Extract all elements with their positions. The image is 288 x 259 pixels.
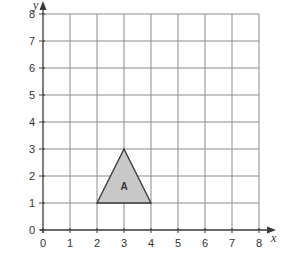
x-tick-label: 8 xyxy=(256,237,262,249)
x-tick-label: 5 xyxy=(175,237,181,249)
x-tick-label: 3 xyxy=(121,237,127,249)
x-tick-label: 7 xyxy=(229,237,235,249)
x-tick-label: 6 xyxy=(202,237,208,249)
x-axis-label: x xyxy=(270,231,277,245)
y-axis-arrow-icon xyxy=(40,1,47,10)
y-tick-label: 7 xyxy=(29,35,35,47)
y-tick-label: 3 xyxy=(29,143,35,155)
y-tick-label: 1 xyxy=(29,197,35,209)
y-tick-label: 0 xyxy=(29,224,35,236)
y-tick-label: 2 xyxy=(29,170,35,182)
y-tick-label: 6 xyxy=(29,62,35,74)
x-tick-label: 1 xyxy=(67,237,73,249)
x-axis-ticks: 012345678 xyxy=(40,228,262,249)
plot-area: A 012345678 012345678 x y xyxy=(0,0,288,259)
x-tick-label: 0 xyxy=(40,237,46,249)
coordinate-grid-diagram: A 012345678 012345678 x y xyxy=(0,0,288,259)
y-axis-label: y xyxy=(32,0,39,12)
y-tick-label: 5 xyxy=(29,89,35,101)
x-tick-label: 2 xyxy=(94,237,100,249)
axes xyxy=(40,1,277,234)
x-tick-label: 4 xyxy=(148,237,154,249)
y-tick-label: 4 xyxy=(29,116,35,128)
grid-lines xyxy=(43,14,259,230)
shape-label-a: A xyxy=(120,181,127,192)
